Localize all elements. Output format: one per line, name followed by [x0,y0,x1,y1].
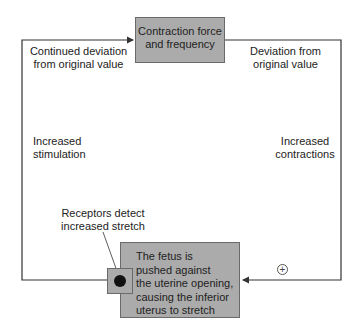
fetus-box-line-3: the uterine opening, [136,277,233,291]
contraction-box: Contraction force and frequency [135,17,225,63]
fetus-box-line-1: The fetus is [136,250,233,264]
label-deviation-from-original: Deviation from original value [243,45,328,71]
contraction-box-line-2: and frequency [138,38,222,51]
label-receptors: Receptors detect increased stretch [58,207,148,233]
label-increased-stimulation: Increased stimulation [33,135,86,161]
receptor-dot-icon [114,275,126,287]
label-continued-deviation: Continued deviation from original value [26,45,131,71]
positive-sign-icon: + [277,264,288,275]
fetus-box-line-5: uterus to stretch [136,304,233,318]
label-increased-contractions: Increased contractions [270,135,340,161]
fetus-box-line-4: causing the inferior [136,291,233,305]
contraction-box-line-1: Contraction force [138,25,222,38]
fetus-box: The fetus is pushed against the uterine … [120,242,240,318]
fetus-box-line-2: pushed against [136,264,233,278]
